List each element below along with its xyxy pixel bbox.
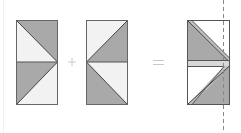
plus-operator (68, 58, 76, 66)
diagram-canvas (0, 0, 241, 133)
equals-operator (153, 61, 164, 65)
left-rectangle (17, 21, 58, 105)
middle-rectangle (87, 21, 128, 105)
